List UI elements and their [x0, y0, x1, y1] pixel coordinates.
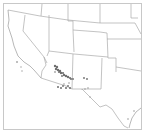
state-borders	[8, 4, 141, 128]
oregon-idaho-border	[41, 4, 42, 16]
oklahoma-panhandle	[108, 58, 141, 71]
newmexico-texas-border	[82, 58, 102, 90]
map-canvas	[0, 0, 146, 133]
rio-grande	[82, 89, 128, 128]
gulf-coast	[129, 108, 141, 128]
arizona-south-west-border	[41, 57, 72, 89]
arizona-newmexico-border	[72, 54, 73, 89]
four-corners-line	[49, 51, 108, 57]
nebraska-border	[100, 23, 141, 34]
california-nevada-border	[23, 15, 47, 63]
dakota-border	[131, 4, 138, 18]
distribution-map	[0, 0, 146, 133]
nevada-utah-border	[47, 15, 49, 56]
oregon-southern-border	[8, 10, 100, 23]
colorado-kansas-border	[107, 33, 108, 58]
utah-colorado-border	[73, 30, 74, 52]
